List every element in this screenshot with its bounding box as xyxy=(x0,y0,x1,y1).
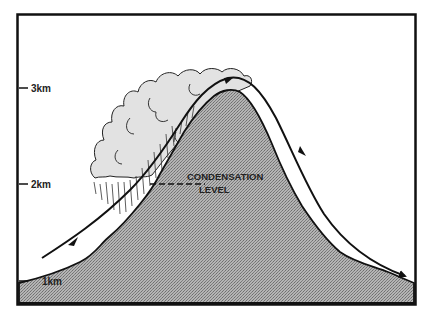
label-3km: 3km xyxy=(31,83,51,94)
label-2km: 2km xyxy=(31,179,51,190)
label-1km: 1km xyxy=(42,276,62,287)
condensation-label-line2: LEVEL xyxy=(199,184,230,195)
orographic-diagram: 3km 2km 1km CONDENSATION LEVEL xyxy=(0,0,426,315)
condensation-label-line1: CONDENSATION xyxy=(187,171,263,182)
